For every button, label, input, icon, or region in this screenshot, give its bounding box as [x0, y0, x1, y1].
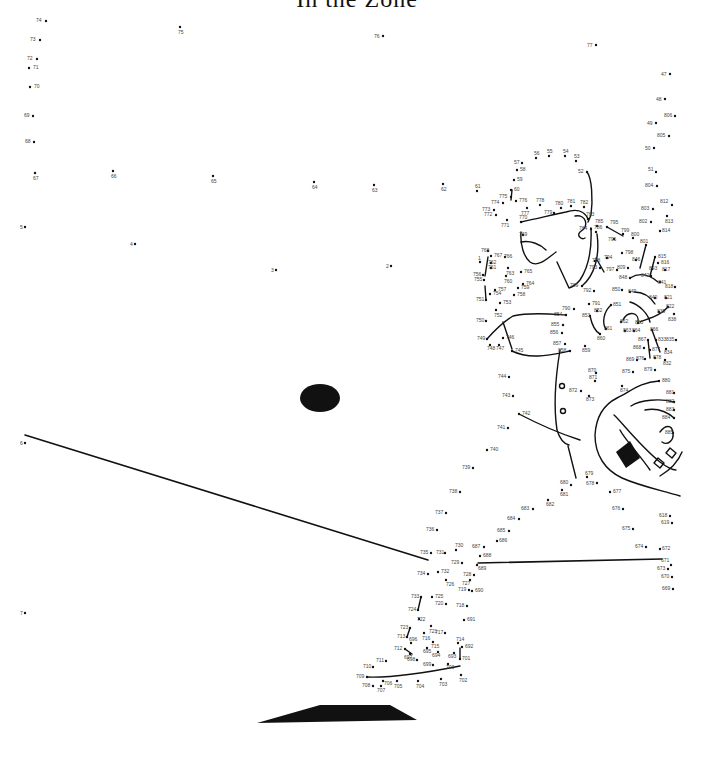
dot-label: 816 — [661, 259, 670, 265]
dot-805 — [668, 135, 670, 137]
dot-label: 57 — [514, 159, 520, 165]
dot-737 — [445, 512, 447, 514]
dot-label: 799 — [621, 227, 630, 233]
dot-label: 860 — [597, 335, 606, 341]
dot-label: 694 — [432, 652, 441, 658]
dot-857 — [564, 343, 566, 345]
dot-734 — [427, 573, 429, 575]
dot-803 — [652, 208, 654, 210]
dot-label: 691 — [467, 616, 476, 622]
dot-label: 47 — [661, 71, 667, 77]
dot-720 — [445, 603, 447, 605]
dot-label: 760 — [504, 278, 513, 284]
dot-label: 54 — [563, 148, 569, 154]
dot-label: 767 — [494, 252, 503, 258]
dot-854 — [565, 314, 567, 316]
dot-55 — [548, 155, 550, 157]
dot-label: 744 — [498, 373, 507, 379]
dot-label: 763 — [506, 270, 515, 276]
dot-732 — [437, 571, 439, 573]
dot-label: 737 — [435, 509, 444, 515]
dot-label: 681 — [560, 491, 569, 497]
dot-67 — [34, 172, 36, 174]
dot-label: 784 — [579, 225, 588, 231]
dot-label: 698 — [407, 656, 416, 662]
dot-label: 1 — [478, 255, 481, 261]
dot-label: 822 — [666, 303, 675, 309]
dot-label: 802 — [639, 218, 648, 224]
dot-868 — [643, 347, 645, 349]
dot-label: 74 — [36, 17, 42, 23]
dot-816 — [657, 262, 659, 264]
dot-to-dot-drawing: 7475767773727170696867666564636261543216… — [0, 0, 714, 758]
dot-856 — [561, 332, 563, 334]
dot-label: 58 — [520, 166, 526, 172]
dot-763 — [507, 267, 509, 269]
dot-51 — [655, 171, 657, 173]
dot-753 — [499, 302, 501, 304]
dot-label: 865 — [635, 319, 644, 325]
dot-867 — [647, 339, 649, 341]
dot-label: 759 — [521, 284, 530, 290]
dot-704 — [417, 680, 419, 682]
dot-label: 746 — [506, 334, 515, 340]
dot-label: 678 — [586, 480, 595, 486]
dot-675 — [632, 528, 634, 530]
dot-674 — [645, 546, 647, 548]
dot-687 — [483, 546, 485, 548]
dot-label: 702 — [459, 677, 468, 683]
dot-label: 881 — [666, 389, 675, 395]
dot-758 — [513, 294, 515, 296]
dot-label: 692 — [465, 643, 474, 649]
jaw — [557, 228, 591, 288]
dot-label: 723 — [400, 624, 409, 630]
dot-label: 748 — [487, 345, 496, 351]
dot-69 — [32, 115, 34, 117]
dot-label: 758 — [517, 291, 526, 297]
dot-736 — [436, 529, 438, 531]
dot-799 — [622, 233, 624, 235]
dot-741 — [507, 427, 509, 429]
dot-label: 838 — [668, 316, 677, 322]
plate-line — [478, 559, 662, 563]
dot-label: 850 — [612, 286, 621, 292]
dot-label: 843 — [649, 265, 658, 271]
dot-label: 75 — [178, 29, 184, 35]
dot-744 — [508, 376, 510, 378]
dot-label: 76 — [374, 33, 380, 39]
hand-curve-8 — [590, 316, 600, 334]
dot-699 — [432, 664, 434, 666]
dot-label: 780 — [555, 200, 564, 206]
dot-786 — [595, 231, 597, 233]
dot-770 — [520, 221, 522, 223]
dot-676 — [622, 508, 624, 510]
dot-label: 726 — [446, 581, 455, 587]
dot-label: 685 — [497, 527, 506, 533]
dot-label: 755 — [474, 276, 483, 282]
dot-801 — [645, 244, 647, 246]
dot-label: 771 — [501, 222, 510, 228]
dot-60 — [510, 189, 512, 191]
dot-label: 794 — [604, 254, 613, 260]
dot-label: 852 — [594, 307, 603, 313]
dot-label: 796 — [608, 236, 617, 242]
dot-818 — [674, 286, 676, 288]
glove-patch — [616, 441, 640, 468]
dot-48 — [664, 98, 666, 100]
dot-label: 770 — [519, 214, 528, 220]
dot-label: 689 — [478, 565, 487, 571]
dot-label: 55 — [547, 148, 553, 154]
dot-label: 715 — [431, 643, 440, 649]
dot-749 — [486, 338, 488, 340]
dot-773 — [493, 209, 495, 211]
dot-label: 6 — [20, 440, 23, 446]
dot-716 — [423, 632, 425, 634]
dot-879 — [654, 369, 656, 371]
dot-label: 673 — [657, 565, 666, 571]
dot-label: 883 — [666, 406, 675, 412]
dot-label: 680 — [560, 479, 569, 485]
dot-783 — [587, 218, 589, 220]
dot-label: 70 — [34, 83, 40, 89]
dot-label: 735 — [420, 549, 429, 555]
dot-735 — [430, 552, 432, 554]
